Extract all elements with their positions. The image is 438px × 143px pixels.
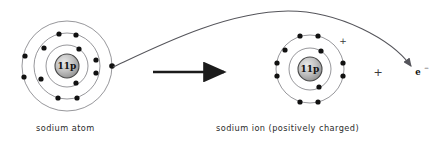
sodium-atom-group: 11p <box>21 21 114 111</box>
electron-dot <box>315 99 320 104</box>
sodium-ionization-diagram: 11p <box>0 0 438 143</box>
atom-nucleus-label: 11p <box>58 61 77 71</box>
ion-nucleus-label: 11p <box>301 64 320 74</box>
free-electron-label: e <box>415 67 421 77</box>
sodium-atom-caption: sodium atom <box>36 123 95 133</box>
electron-dot <box>41 45 46 50</box>
electron-transfer-curve <box>113 11 411 67</box>
ion-positive-charge-symbol: + <box>339 36 347 46</box>
electron-dot <box>56 31 61 36</box>
electron-dot <box>316 84 321 89</box>
electron-dot <box>315 33 320 38</box>
electron-dot <box>38 76 43 81</box>
electron-dot <box>55 95 60 100</box>
sodium-ion-caption: sodium ion (positively charged) <box>216 123 359 133</box>
electron-dot <box>274 60 279 65</box>
electron-dot <box>93 70 98 75</box>
electron-dot <box>340 73 345 78</box>
electron-dot <box>73 80 78 85</box>
electron-dot <box>340 60 345 65</box>
plus-operator: + <box>373 66 382 79</box>
electron-dot <box>274 73 279 78</box>
electron-dot <box>282 47 287 52</box>
electron-dot <box>74 95 79 100</box>
electron-dot <box>22 53 27 58</box>
electron-dot <box>73 32 78 37</box>
electron-dot <box>21 74 26 79</box>
sodium-ion-group: 11p + <box>274 33 346 104</box>
electron-dot <box>297 99 302 104</box>
electron-dot <box>297 33 302 38</box>
electron-dot <box>93 57 98 62</box>
electron-dot <box>76 46 81 51</box>
electron-dot <box>318 48 323 53</box>
diagram-canvas: 11p <box>0 0 438 143</box>
free-electron-charge-superscript: − <box>424 64 429 71</box>
